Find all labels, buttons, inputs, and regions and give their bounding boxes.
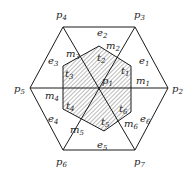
- label-p5: p5: [14, 83, 25, 96]
- label-e6: e6: [140, 113, 151, 126]
- label-m4: m4: [45, 90, 59, 103]
- label-m6: m6: [124, 118, 138, 131]
- label-e2: e2: [97, 27, 108, 40]
- label-e3: e3: [48, 55, 59, 68]
- hexagon-subdivision-diagram: p4p3p5p2p6p7p1e2e1e3e4e6e5m2m3m1m4m5m6t2…: [0, 0, 191, 172]
- label-e1: e1: [139, 55, 149, 68]
- label-m2: m2: [106, 40, 120, 53]
- label-p4: p4: [56, 9, 67, 22]
- label-p3: p3: [134, 9, 145, 22]
- label-m1: m1: [136, 75, 150, 88]
- label-p7: p7: [134, 156, 145, 169]
- label-p6: p6: [56, 156, 67, 169]
- label-m3: m3: [66, 48, 80, 61]
- label-p2: p2: [172, 83, 183, 96]
